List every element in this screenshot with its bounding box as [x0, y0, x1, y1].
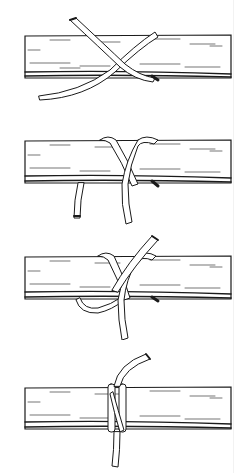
step-2-illustration [0, 110, 243, 230]
step-1-illustration [0, 0, 243, 110]
step-3-panel [0, 230, 243, 340]
step-3-illustration [0, 230, 243, 340]
step-2-panel [0, 110, 243, 230]
step-4-illustration [0, 340, 243, 473]
step-4-panel [0, 340, 243, 473]
step-1-panel [0, 0, 243, 110]
